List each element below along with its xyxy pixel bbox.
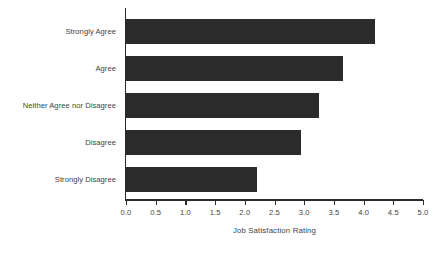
bar-strongly-disagree	[126, 167, 257, 192]
y-tick-label-disagree: Disagree	[0, 138, 116, 147]
bar-strongly-agree	[126, 19, 375, 44]
bar-row	[126, 19, 375, 44]
x-tick-mark	[185, 200, 186, 205]
x-axis-title: Job Satisfaction Rating	[126, 226, 423, 235]
x-tick-mark	[275, 200, 276, 205]
y-tick-label-strongly-agree: Strongly Agree	[0, 27, 116, 36]
x-tick-mark	[364, 200, 365, 205]
bar-row	[126, 93, 319, 118]
y-tick-label-agree: Agree	[0, 64, 116, 73]
x-tick-mark	[423, 200, 424, 205]
bar-row	[126, 56, 343, 81]
bar-neither-agree-nor-disagree	[126, 93, 319, 118]
bar-disagree	[126, 130, 301, 155]
x-tick-mark	[126, 200, 127, 205]
y-tick-label-neither-agree-nor-disagree: Neither Agree nor Disagree	[0, 101, 116, 110]
x-tick-label: 5.0	[403, 208, 436, 217]
bar-agree	[126, 56, 343, 81]
bar-row	[126, 130, 301, 155]
x-tick-mark	[334, 200, 335, 205]
x-tick-mark	[393, 200, 394, 205]
bar-row	[126, 167, 257, 192]
bottom-caption	[10, 245, 426, 254]
x-tick-mark	[215, 200, 216, 205]
x-tick-mark	[304, 200, 305, 205]
y-tick-label-strongly-disagree: Strongly Disagree	[0, 175, 116, 184]
x-tick-mark	[156, 200, 157, 205]
plot-area	[126, 8, 423, 200]
x-tick-mark	[245, 200, 246, 205]
chart-figure: Strongly Agree Agree Neither Agree nor D…	[0, 0, 436, 254]
